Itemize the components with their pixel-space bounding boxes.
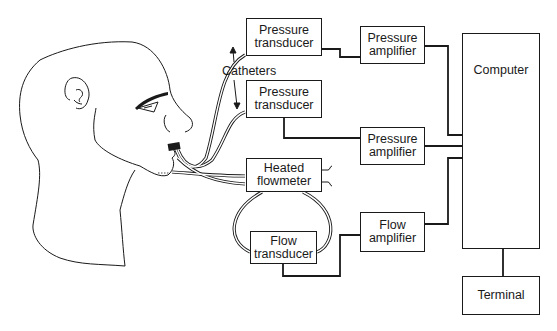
flow-transducer-box: Flow transducer — [250, 231, 317, 264]
pressure-transducer-2-box: Pressure transducer — [246, 80, 322, 118]
flowmeter-power-wires — [322, 166, 332, 186]
flow-amplifier-box: Flow amplifier — [360, 212, 425, 252]
pressure-amplifier-1-box: Pressure amplifier — [360, 26, 425, 64]
computer-box: Computer — [462, 33, 540, 249]
pressure-transducer-1-box: Pressure transducer — [246, 18, 322, 56]
catheter-arrows — [230, 47, 240, 109]
heated-flowmeter-box: Heated flowmeter — [246, 158, 322, 192]
nose-clip — [168, 142, 181, 151]
head-profile-illustration — [20, 42, 193, 266]
pressure-amplifier-2-box: Pressure amplifier — [360, 127, 425, 165]
eyebrow-illustration — [135, 92, 168, 110]
catheters-label: Catheters — [222, 64, 276, 78]
terminal-box: Terminal — [462, 276, 540, 315]
